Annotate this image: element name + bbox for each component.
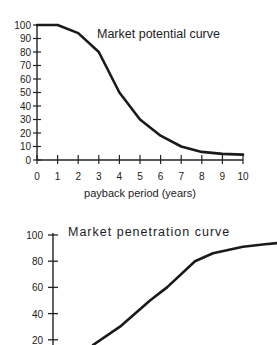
x-tick-label: 2 [75, 171, 81, 182]
x-tick-label: 0 [34, 171, 40, 182]
x-axis-label: payback period (years) [84, 187, 196, 199]
y-tick-label: 70 [20, 60, 32, 71]
x-tick-label: 1 [55, 171, 61, 182]
y-tick-label: 40 [32, 309, 44, 320]
y-tick-label: 40 [20, 101, 32, 112]
y-tick-label: 60 [32, 282, 44, 293]
y-tick-label: 30 [20, 114, 32, 125]
y-tick-label: 10 [20, 141, 32, 152]
chart-title: Market potential curve [97, 27, 220, 41]
charts-canvas: Market potential curve 01020304050607080… [0, 0, 277, 345]
x-tick-label: 7 [178, 171, 184, 182]
y-tick-label: 20 [32, 335, 44, 345]
x-ticks: 012345678910 [34, 155, 249, 182]
market-penetration-chart: Market penetration curve 20406080100 [26, 225, 277, 345]
y-tick-label: 80 [32, 256, 44, 267]
chart-title: Market penetration curve [68, 225, 230, 239]
y-tick-label: 100 [26, 230, 43, 241]
y-tick-label: 80 [20, 47, 32, 58]
market-penetration-line [93, 243, 277, 345]
market-potential-chart: Market potential curve 01020304050607080… [14, 20, 249, 200]
x-tick-label: 4 [117, 171, 123, 182]
y-tick-label: 100 [14, 20, 31, 31]
market-potential-line [37, 25, 243, 155]
y-tick-label: 20 [20, 128, 32, 139]
x-tick-label: 3 [96, 171, 102, 182]
y-tick-label: 50 [20, 87, 32, 98]
x-tick-label: 6 [158, 171, 164, 182]
y-tick-label: 0 [25, 155, 31, 166]
y-tick-label: 90 [20, 33, 32, 44]
x-tick-label: 9 [220, 171, 226, 182]
x-tick-label: 8 [199, 171, 205, 182]
x-tick-label: 10 [237, 171, 249, 182]
y-tick-label: 60 [20, 74, 32, 85]
x-tick-label: 5 [137, 171, 143, 182]
